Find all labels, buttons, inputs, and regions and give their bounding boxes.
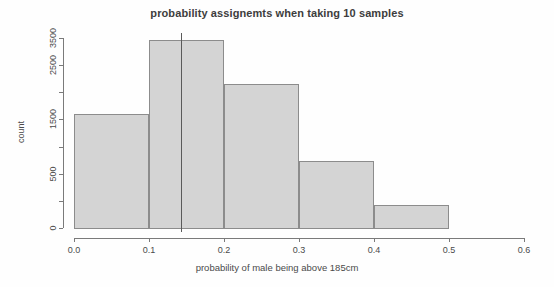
y-axis-tick	[59, 147, 63, 148]
x-axis-tick	[149, 238, 150, 242]
x-axis-tick-label: 0.5	[429, 245, 469, 255]
histogram-bar	[149, 40, 224, 229]
y-axis-line	[63, 38, 64, 228]
y-axis-tick-label: 1500	[48, 99, 58, 139]
x-axis-tick	[299, 238, 300, 242]
x-axis-tick	[524, 238, 525, 242]
x-axis-tick	[224, 238, 225, 242]
x-axis-tick-label: 0.4	[354, 245, 394, 255]
x-axis-title: probability of male being above 185cm	[0, 262, 554, 273]
y-axis-tick	[59, 119, 63, 120]
x-axis-tick-label: 0.6	[504, 245, 544, 255]
y-axis-tick-label: 500	[48, 154, 58, 194]
y-axis-tick	[59, 65, 63, 66]
x-axis-tick	[374, 238, 375, 242]
y-axis-tick	[59, 228, 63, 229]
histogram-figure: probability assignemts when taking 10 sa…	[0, 0, 554, 287]
y-axis-tick	[59, 174, 63, 175]
x-axis-tick-label: 0.0	[54, 245, 94, 255]
y-axis-tick-label: 0	[48, 208, 58, 248]
y-axis-tick-label: 3500	[48, 18, 58, 58]
x-axis-tick-label: 0.3	[279, 245, 319, 255]
x-axis-tick-label: 0.2	[204, 245, 244, 255]
x-axis-tick-label: 0.1	[129, 245, 169, 255]
y-axis-tick	[59, 201, 63, 202]
histogram-bar	[374, 205, 449, 229]
histogram-bar	[299, 161, 374, 229]
y-axis-tick	[59, 38, 63, 39]
y-axis-tick	[59, 92, 63, 93]
plot-area: 0 500 1500 2500 3500 count 0.0 0.1 0.2 0…	[0, 0, 554, 287]
histogram-bar	[74, 114, 149, 229]
x-axis-tick	[449, 238, 450, 242]
histogram-bar	[224, 84, 299, 229]
y-axis-title: count	[16, 107, 26, 157]
reference-line	[181, 33, 182, 232]
x-axis-tick	[74, 238, 75, 242]
